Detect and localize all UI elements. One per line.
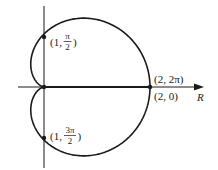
svg-text:2: 2: [68, 136, 73, 146]
svg-text:2: 2: [65, 42, 70, 52]
point-1-3pi-over-2: [42, 136, 46, 140]
label-2-0: (2, 0): [154, 90, 178, 103]
label-1-pi-over-2: (1, π 2 ): [50, 31, 77, 52]
label-2-2pi: (2, 2π): [154, 73, 184, 86]
svg-text:): ): [78, 130, 82, 143]
svg-text:3π: 3π: [65, 125, 75, 135]
cardioid-diagram: (1, π 2 ) (1, 3π 2 ) (2, 2π) (2, 0) R: [0, 0, 218, 170]
point-1-pi-over-2: [42, 35, 46, 39]
svg-text:π: π: [65, 31, 70, 41]
axis-label-r: R: [196, 91, 204, 103]
point-2-0: [148, 85, 152, 89]
label-1-3pi-over-2: (1, 3π 2 ): [50, 125, 82, 146]
point-origin: [42, 85, 46, 89]
axis-arrow-icon: [194, 84, 204, 91]
svg-text:(1,: (1,: [50, 130, 62, 143]
svg-text:(1,: (1,: [50, 36, 62, 49]
svg-text:): ): [73, 36, 77, 49]
